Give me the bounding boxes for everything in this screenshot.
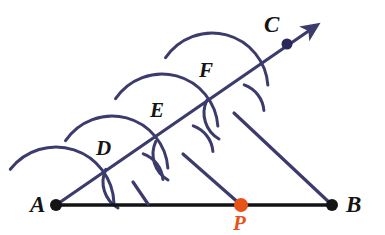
label-e: E bbox=[149, 98, 164, 122]
point-b-dot bbox=[326, 199, 338, 211]
label-d: D bbox=[95, 136, 111, 160]
point-p-dot bbox=[234, 198, 248, 212]
labels-group: ABCDEFP bbox=[28, 12, 361, 235]
parallel-foot-to-D-mark bbox=[133, 182, 148, 204]
tick-arcs-group bbox=[103, 85, 264, 208]
label-c: C bbox=[264, 12, 280, 37]
label-f: F bbox=[198, 58, 213, 82]
label-a: A bbox=[28, 192, 45, 217]
geometry-figure: ABCDEFP bbox=[0, 0, 385, 235]
point-a-dot bbox=[50, 199, 62, 211]
transversal-B-to-F-mark bbox=[234, 113, 332, 205]
label-b: B bbox=[345, 192, 361, 217]
tick-arc-c2 bbox=[244, 85, 264, 111]
construction-diagram-canvas: ABCDEFP bbox=[0, 0, 385, 235]
label-p: P bbox=[232, 211, 246, 235]
parallel-P-to-E-mark bbox=[183, 154, 241, 205]
compass-arcs-group bbox=[10, 33, 268, 203]
point-c-dot bbox=[282, 39, 293, 50]
